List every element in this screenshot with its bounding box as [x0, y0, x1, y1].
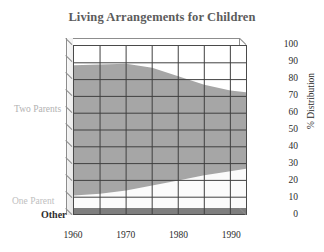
y-tick-label: 40	[272, 142, 298, 152]
series-label-other: Other	[41, 209, 67, 220]
y-tick-label: 70	[272, 91, 298, 101]
y-tick-label: 20	[272, 176, 298, 186]
plot-area-wrapper: 1009080706050403020100 % Distribution 19…	[0, 0, 324, 252]
series-label-two-parents: Two Parents	[14, 104, 61, 114]
y-tick-label: 0	[272, 210, 298, 220]
x-tick-label: 1970	[106, 230, 146, 240]
stacked-area-series	[74, 46, 246, 214]
chart-root: Living Arrangements for Children 1009080…	[0, 0, 324, 252]
y-tick-label: 90	[272, 57, 298, 67]
plot-canvas	[73, 45, 247, 215]
y-tick-label: 100	[272, 40, 298, 50]
series-label-one-parent: One Parent	[12, 196, 54, 206]
y-tick-label: 30	[272, 159, 298, 169]
y-tick-label: 50	[272, 125, 298, 135]
x-tick-label: 1990	[211, 230, 251, 240]
depth-rung-right	[239, 38, 246, 45]
y-tick-label: 10	[272, 193, 298, 203]
x-tick-label: 1980	[158, 230, 198, 240]
x-tick-label: 1960	[53, 230, 93, 240]
y-tick-label: 60	[272, 108, 298, 118]
y-axis-title: % Distribution	[306, 73, 316, 129]
y-tick-label: 80	[272, 74, 298, 84]
